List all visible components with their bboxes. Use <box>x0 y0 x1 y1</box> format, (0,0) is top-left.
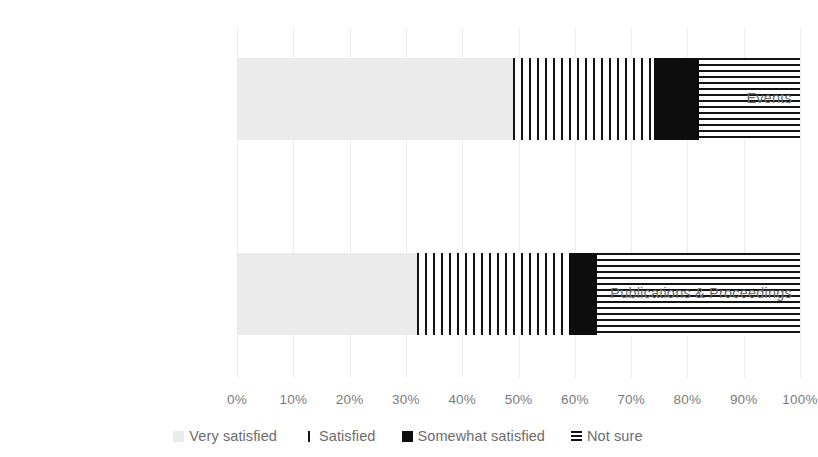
category-label-publications-proceedings: Publications & Proceedings <box>572 285 792 301</box>
legend-item[interactable]: Somewhat satisfied <box>402 428 546 444</box>
x-axis-tick-label: 80% <box>674 392 702 407</box>
legend-item-label: Satisfied <box>319 428 376 444</box>
light-gray-square-icon <box>173 431 184 442</box>
legend-item[interactable]: Very satisfied <box>173 428 277 444</box>
bar-segment <box>237 58 513 140</box>
x-axis-tick-label: 0% <box>227 392 247 407</box>
legend-item[interactable]: Satisfied <box>303 428 376 444</box>
gridline <box>800 28 801 378</box>
legend-item-label: Somewhat satisfied <box>418 428 546 444</box>
x-axis-tick-label: 60% <box>561 392 589 407</box>
x-axis-tick-label: 100% <box>782 392 817 407</box>
x-axis-tick-label: 20% <box>336 392 364 407</box>
x-axis-tick-label: 50% <box>505 392 533 407</box>
category-label-events: Events <box>572 90 792 106</box>
legend-item[interactable]: Not sure <box>571 428 643 444</box>
bar-segment <box>237 253 417 335</box>
black-square-icon <box>402 431 413 442</box>
x-axis-tick-label: 70% <box>617 392 645 407</box>
chart-legend: Very satisfiedSatisfiedSomewhat satisfie… <box>0 428 816 444</box>
horizontal-lines-square-icon <box>571 431 582 442</box>
plot-area <box>237 28 800 378</box>
bar-segment <box>417 253 569 335</box>
legend-item-label: Not sure <box>587 428 643 444</box>
x-axis-tick-label: 30% <box>392 392 420 407</box>
x-axis: 0%10%20%30%40%50%60%70%80%90%100% <box>237 392 800 410</box>
x-axis-tick-label: 40% <box>448 392 476 407</box>
legend-item-label: Very satisfied <box>189 428 277 444</box>
x-axis-tick-label: 10% <box>279 392 307 407</box>
x-axis-tick-label: 90% <box>730 392 758 407</box>
vertical-line-square-icon <box>303 431 314 442</box>
